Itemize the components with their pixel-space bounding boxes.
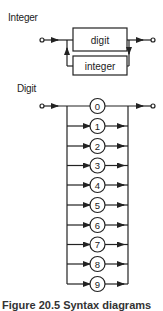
entry-terminal-icon <box>40 104 44 108</box>
terminal-2-label: 2 <box>95 141 100 152</box>
exit-terminal-icon <box>151 38 155 42</box>
terminal-4-label: 4 <box>95 180 100 191</box>
figure-caption: Figure 20.5 Syntax diagrams <box>2 299 151 311</box>
terminal-0-label: 0 <box>95 101 100 112</box>
terminal-9-label: 9 <box>95 279 100 290</box>
integer-box-label: integer <box>85 61 116 72</box>
terminal-5-label: 5 <box>95 200 100 211</box>
entry-terminal-icon <box>40 38 44 42</box>
terminal-3-label: 3 <box>95 160 100 171</box>
digit-box-label: digit <box>91 35 110 46</box>
terminal-8-label: 8 <box>95 259 100 270</box>
terminal-7-label: 7 <box>95 239 100 250</box>
terminal-6-label: 6 <box>95 220 100 231</box>
exit-terminal-icon <box>151 104 155 108</box>
terminal-1-label: 1 <box>95 121 100 132</box>
